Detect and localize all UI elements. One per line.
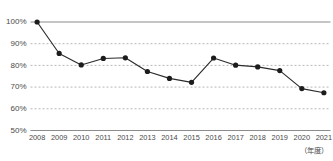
data-point-marker bbox=[189, 80, 194, 85]
x-axis-tick-label: 2016 bbox=[205, 133, 221, 142]
x-axis-tick-label: 2008 bbox=[29, 133, 45, 142]
line-chart: 100%90%80%70%60%50% 20082009201020112012… bbox=[0, 0, 333, 161]
x-axis-tick-label: 2009 bbox=[51, 133, 67, 142]
y-axis-tick-label: 100% bbox=[6, 17, 26, 26]
x-axis-tick-label: 2014 bbox=[161, 133, 177, 142]
data-point-marker bbox=[321, 90, 326, 95]
data-point-marker bbox=[167, 76, 172, 81]
x-axis-tick-label: 2020 bbox=[294, 133, 310, 142]
y-axis-tick-labels: 100%90%80%70%60%50% bbox=[6, 17, 26, 135]
x-axis-tick-label: 2017 bbox=[227, 133, 243, 142]
y-axis-tick-label: 90% bbox=[10, 39, 26, 48]
x-axis-tick-label: 2011 bbox=[95, 133, 111, 142]
x-axis-tick-label: 2018 bbox=[249, 133, 265, 142]
data-series bbox=[37, 22, 324, 93]
gridlines bbox=[31, 44, 331, 109]
data-point-marker bbox=[277, 68, 282, 73]
series-line bbox=[37, 22, 324, 93]
x-axis-tick-labels: 2008200920102011201220132014201520162017… bbox=[29, 133, 332, 142]
x-axis-caption: （年度） bbox=[300, 146, 328, 155]
axis-lines bbox=[31, 22, 331, 131]
data-point-marker bbox=[57, 51, 62, 56]
y-axis-tick-label: 80% bbox=[10, 61, 26, 70]
y-axis-tick-label: 70% bbox=[10, 82, 26, 91]
x-axis-tick-label: 2019 bbox=[272, 133, 288, 142]
data-point-marker bbox=[299, 86, 304, 91]
y-axis-tick-label: 50% bbox=[10, 126, 26, 135]
data-point-marker bbox=[123, 55, 128, 60]
x-axis-tick-label: 2021 bbox=[316, 133, 332, 142]
x-axis-tick-label: 2010 bbox=[73, 133, 89, 142]
chart-canvas: 100%90%80%70%60%50% 20082009201020112012… bbox=[0, 0, 333, 161]
x-axis-tick-label: 2013 bbox=[139, 133, 155, 142]
y-axis-tick-label: 60% bbox=[10, 104, 26, 113]
x-axis-tick-label: 2015 bbox=[183, 133, 199, 142]
data-point-markers bbox=[35, 19, 327, 95]
data-point-marker bbox=[145, 69, 150, 74]
data-point-marker bbox=[255, 64, 260, 69]
data-point-marker bbox=[233, 63, 238, 68]
data-point-marker bbox=[79, 62, 84, 67]
data-point-marker bbox=[211, 55, 216, 60]
data-point-marker bbox=[35, 19, 40, 24]
x-axis-tick-label: 2012 bbox=[117, 133, 133, 142]
data-point-marker bbox=[101, 56, 106, 61]
